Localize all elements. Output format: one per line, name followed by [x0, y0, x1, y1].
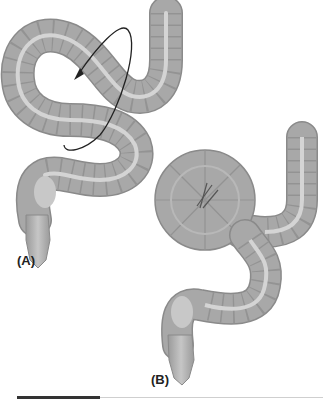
panel-a-label: (A) [17, 253, 35, 268]
caption-rule [100, 397, 323, 398]
panel-b-label: (B) [151, 372, 169, 387]
panel-b-rectum [168, 335, 194, 385]
panel-a-colon [18, 13, 166, 268]
panel-b-colon [155, 137, 302, 385]
caption-rule-accent [17, 396, 100, 399]
volvulus-figure [0, 0, 335, 400]
